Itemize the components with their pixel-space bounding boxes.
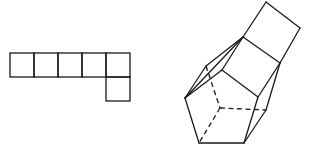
hidden-edge-2 [199, 108, 220, 143]
visible-edge-16 [244, 110, 266, 143]
net-square-4 [82, 53, 106, 77]
visible-edge-1 [266, 2, 300, 28]
visible-edge-7 [222, 70, 258, 97]
hidden-edge-3 [220, 108, 266, 110]
visible-edge-8 [206, 37, 243, 66]
visible-edge-15 [266, 63, 280, 110]
geometry-figure [0, 0, 314, 149]
visible-edge-12 [185, 98, 199, 143]
visible-edge-2 [280, 28, 300, 63]
net-square-6 [106, 77, 130, 101]
visible-edge-11 [185, 70, 222, 98]
visible-edge-5 [222, 37, 243, 70]
net-square-1 [10, 53, 34, 77]
visible-edge-4 [243, 2, 266, 37]
visible-edge-10 [185, 37, 243, 98]
net-square-3 [58, 53, 82, 77]
visible-edge-3 [243, 37, 280, 63]
square-net [10, 53, 130, 101]
net-square-2 [34, 53, 58, 77]
polyhedron [185, 2, 300, 143]
visible-edge-14 [244, 97, 258, 143]
net-square-5 [106, 53, 130, 77]
visible-edge-9 [185, 66, 206, 98]
visible-edge-6 [258, 63, 280, 97]
